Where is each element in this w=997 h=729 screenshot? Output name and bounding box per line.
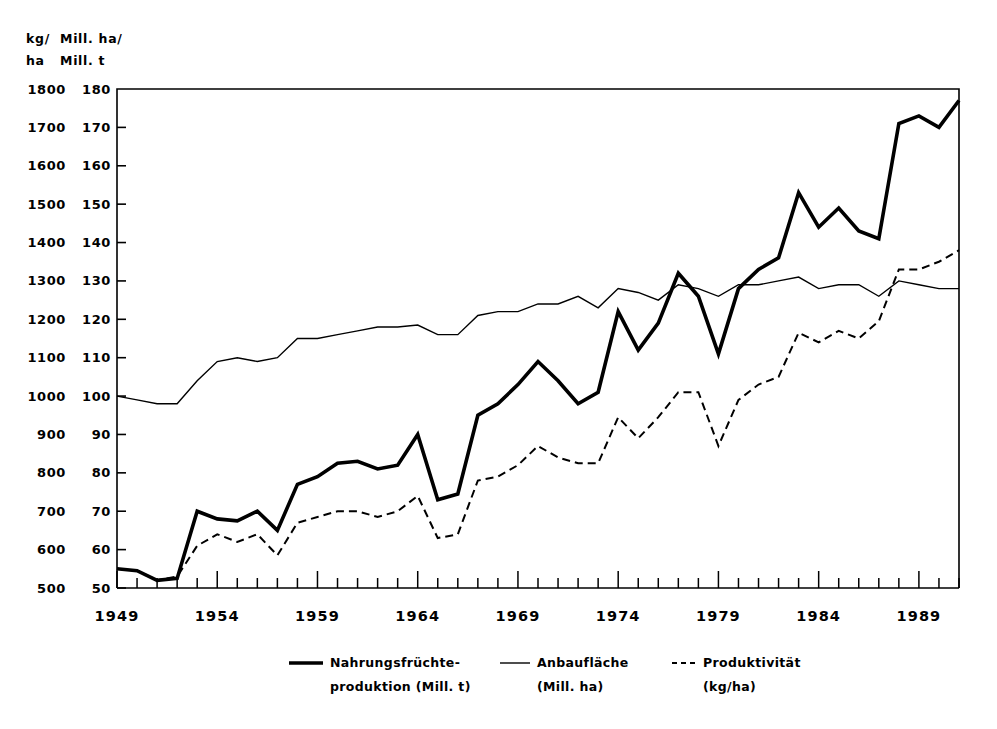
- legend-label-line1: Anbaufläche: [537, 655, 629, 670]
- left-tick-label: 600: [37, 542, 66, 557]
- right-tick-label: 160: [82, 158, 111, 173]
- right-tick-label: 60: [92, 542, 111, 557]
- axis-unit-labels: kg/haMill. ha/Mill. t: [26, 31, 123, 68]
- x-axis-ticks: [117, 571, 959, 588]
- x-tick-label: 1984: [796, 608, 841, 624]
- legend-label-line2: produktion (Mill. t): [330, 679, 471, 694]
- left-tick-label: 1000: [27, 389, 66, 404]
- x-tick-label: 1979: [696, 608, 741, 624]
- chart-root: kg/haMill. ha/Mill. t 500600700800900100…: [0, 0, 997, 729]
- x-tick-label: 1964: [395, 608, 440, 624]
- plot-border: [117, 89, 959, 588]
- legend-item[interactable]: Anbaufläche(Mill. ha): [500, 655, 629, 694]
- right-tick-label: 120: [82, 312, 111, 327]
- series-line-produktivitaet: [117, 250, 959, 580]
- x-tick-label: 1969: [496, 608, 541, 624]
- left-tick-label: 800: [37, 465, 66, 480]
- right-tick-label: 90: [92, 427, 111, 442]
- right-tick-label: 110: [82, 350, 111, 365]
- left-tick-label: 500: [37, 581, 66, 596]
- right-tick-label: 100: [82, 389, 111, 404]
- series-line-anbauflaeche: [117, 277, 959, 404]
- left-tick-label: 700: [37, 504, 66, 519]
- left-tick-label: 1600: [27, 158, 66, 173]
- x-tick-label: 1949: [95, 608, 140, 624]
- legend-item[interactable]: Produktivität(kg/ha): [672, 655, 801, 694]
- right-tick-label: 180: [82, 82, 111, 97]
- x-tick-label: 1989: [897, 608, 942, 624]
- left-tick-label: 1700: [27, 120, 66, 135]
- legend-label-line1: Produktivität: [703, 655, 801, 670]
- x-tick-label: 1959: [295, 608, 340, 624]
- line-chart: kg/haMill. ha/Mill. t 500600700800900100…: [0, 0, 997, 729]
- left-tick-label: 1400: [27, 235, 66, 250]
- left-tick-label: 1500: [27, 197, 66, 212]
- x-tick-label: 1974: [596, 608, 641, 624]
- right-axis-unit-line2: Mill. t: [60, 53, 105, 68]
- left-axis-unit-line1: kg/: [26, 31, 50, 46]
- chart-legend: Nahrungsfrüchte-produktion (Mill. t)Anba…: [289, 655, 801, 694]
- right-tick-label: 150: [82, 197, 111, 212]
- right-tick-label: 170: [82, 120, 111, 135]
- series-line-nahrungsfruechte-produktion: [117, 101, 959, 581]
- right-tick-label: 70: [92, 504, 111, 519]
- right-tick-label: 140: [82, 235, 111, 250]
- legend-label-line1: Nahrungsfrüchte-: [330, 655, 460, 670]
- right-tick-label: 80: [92, 465, 111, 480]
- left-tick-label: 1300: [27, 273, 66, 288]
- right-axis-tick-labels: 5060708090100110120130140150160170180: [82, 82, 111, 596]
- data-series-layer: [117, 101, 959, 581]
- plot-frame: [117, 89, 959, 588]
- left-tick-label: 900: [37, 427, 66, 442]
- left-tick-label: 1200: [27, 312, 66, 327]
- legend-item[interactable]: Nahrungsfrüchte-produktion (Mill. t): [289, 655, 471, 694]
- left-tick-label: 1100: [27, 350, 66, 365]
- x-tick-label: 1954: [195, 608, 240, 624]
- left-axis-unit-line2: ha: [26, 53, 45, 68]
- right-axis-unit-line1: Mill. ha/: [60, 31, 123, 46]
- legend-label-line2: (Mill. ha): [537, 679, 604, 694]
- right-tick-label: 130: [82, 273, 111, 288]
- left-axis-tick-labels: 5006007008009001000110012001300140015001…: [27, 82, 66, 596]
- legend-label-line2: (kg/ha): [703, 679, 756, 694]
- left-tick-label: 1800: [27, 82, 66, 97]
- y-axis-ticks: [117, 127, 126, 588]
- x-axis-tick-labels: 194919541959196419691974197919841989: [95, 608, 942, 624]
- right-tick-label: 50: [92, 581, 111, 596]
